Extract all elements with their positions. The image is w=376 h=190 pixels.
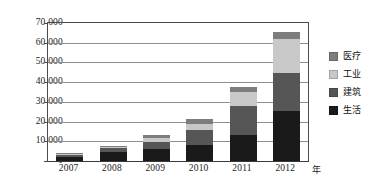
bar-segment[interactable] xyxy=(273,111,300,161)
legend-item[interactable]: 建筑 xyxy=(329,88,361,97)
chart-title xyxy=(0,0,310,5)
bar-segment[interactable] xyxy=(186,145,213,161)
bar-group[interactable] xyxy=(143,135,170,161)
legend-label: 生活 xyxy=(343,106,361,115)
stacked-bar-chart: 010 00020 00030 00040 00050 00060 00070 … xyxy=(0,0,376,190)
bar-segment[interactable] xyxy=(230,106,257,136)
x-axis-unit-label: 年 xyxy=(312,163,321,176)
legend-label: 工业 xyxy=(343,70,361,79)
bar-series-container xyxy=(48,23,308,161)
bar-group[interactable] xyxy=(273,32,300,161)
bar-segment[interactable] xyxy=(100,152,127,161)
bar-segment[interactable] xyxy=(143,142,170,149)
bar-segment[interactable] xyxy=(273,73,300,110)
legend-item[interactable]: 医疗 xyxy=(329,52,361,61)
bar-segment[interactable] xyxy=(230,135,257,161)
bar-segment[interactable] xyxy=(56,157,83,161)
legend-swatch-icon xyxy=(329,70,338,79)
bar-segment[interactable] xyxy=(230,92,257,106)
legend-swatch-icon xyxy=(329,52,338,61)
bar-segment[interactable] xyxy=(186,124,213,131)
x-axis-tick-label: 2012 xyxy=(260,163,310,173)
legend-label: 建筑 xyxy=(343,88,361,97)
bar-group[interactable] xyxy=(186,119,213,161)
y-axis-tick xyxy=(44,161,48,162)
legend-item[interactable]: 生活 xyxy=(329,106,361,115)
plot-area xyxy=(47,22,309,162)
bar-group[interactable] xyxy=(56,153,83,161)
bar-segment[interactable] xyxy=(273,39,300,74)
bar-segment[interactable] xyxy=(143,149,170,161)
legend-label: 医疗 xyxy=(343,52,361,61)
legend-item[interactable]: 工业 xyxy=(329,70,361,79)
legend: 医疗工业建筑生活 xyxy=(329,52,361,115)
bar-group[interactable] xyxy=(230,87,257,162)
bar-group[interactable] xyxy=(100,146,127,161)
legend-swatch-icon xyxy=(329,88,338,97)
legend-swatch-icon xyxy=(329,106,338,115)
bar-segment[interactable] xyxy=(186,130,213,145)
